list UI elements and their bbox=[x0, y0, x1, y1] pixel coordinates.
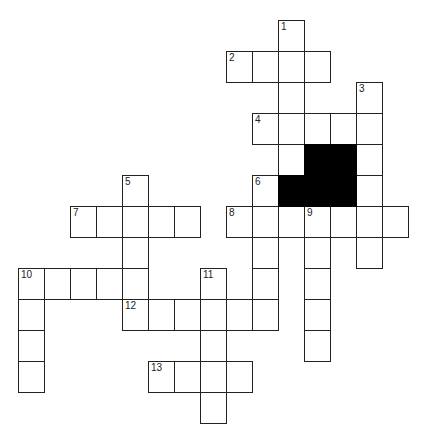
crossword-cell[interactable] bbox=[200, 361, 227, 393]
crossword-cell[interactable] bbox=[304, 237, 331, 269]
crossword-cell[interactable]: 12 bbox=[122, 299, 149, 331]
crossword-cell[interactable]: 10 bbox=[18, 268, 45, 300]
crossword-cell[interactable] bbox=[356, 237, 383, 269]
crossword-cell[interactable]: 2 bbox=[226, 51, 253, 83]
crossword-cell[interactable] bbox=[122, 268, 149, 300]
crossword-cell[interactable]: 4 bbox=[252, 113, 279, 145]
clue-number: 10 bbox=[21, 270, 32, 280]
crossword-cell[interactable] bbox=[122, 237, 149, 269]
crossword-cell[interactable] bbox=[122, 206, 149, 238]
crossword-cell[interactable] bbox=[356, 206, 383, 238]
crossword-cell[interactable] bbox=[330, 113, 357, 145]
crossword-cell[interactable] bbox=[252, 268, 279, 300]
black-block bbox=[330, 175, 357, 207]
crossword-cell[interactable] bbox=[304, 268, 331, 300]
clue-number: 3 bbox=[359, 84, 365, 94]
crossword-cell[interactable] bbox=[278, 206, 305, 238]
crossword-cell[interactable] bbox=[356, 144, 383, 176]
crossword-cell[interactable] bbox=[356, 175, 383, 207]
clue-number: 9 bbox=[307, 208, 313, 218]
black-block bbox=[330, 144, 357, 176]
clue-number: 1 bbox=[281, 22, 287, 32]
crossword-cell[interactable] bbox=[18, 361, 45, 393]
crossword-cell[interactable]: 5 bbox=[122, 175, 149, 207]
crossword-cell[interactable] bbox=[356, 113, 383, 145]
clue-number: 11 bbox=[203, 270, 213, 280]
crossword-cell[interactable] bbox=[148, 299, 175, 331]
crossword-cell[interactable]: 8 bbox=[226, 206, 253, 238]
crossword-cell[interactable] bbox=[382, 206, 409, 238]
crossword-cell[interactable] bbox=[278, 51, 305, 83]
clue-number: 6 bbox=[255, 177, 261, 187]
crossword-cell[interactable] bbox=[200, 299, 227, 331]
clue-number: 8 bbox=[229, 208, 235, 218]
clue-number: 4 bbox=[255, 115, 261, 125]
crossword-cell[interactable] bbox=[252, 237, 279, 269]
crossword-cell[interactable] bbox=[148, 206, 175, 238]
crossword-cell[interactable] bbox=[252, 51, 279, 83]
crossword-cell[interactable] bbox=[278, 144, 305, 176]
crossword-cell[interactable] bbox=[304, 113, 331, 145]
crossword-cell[interactable]: 7 bbox=[70, 206, 97, 238]
clue-number: 2 bbox=[229, 53, 235, 63]
crossword-cell[interactable] bbox=[174, 299, 201, 331]
clue-number: 12 bbox=[125, 301, 136, 311]
crossword-cell[interactable] bbox=[330, 206, 357, 238]
crossword-cell[interactable] bbox=[96, 206, 123, 238]
crossword-cell[interactable]: 1 bbox=[278, 20, 305, 52]
black-block bbox=[304, 144, 331, 176]
crossword-cell[interactable] bbox=[200, 392, 227, 424]
crossword-cell[interactable] bbox=[304, 299, 331, 331]
crossword-cell[interactable] bbox=[18, 330, 45, 362]
crossword-cell[interactable] bbox=[226, 361, 253, 393]
crossword-cell[interactable] bbox=[70, 268, 97, 300]
crossword-cell[interactable]: 6 bbox=[252, 175, 279, 207]
crossword-cell[interactable] bbox=[304, 330, 331, 362]
crossword-cell[interactable] bbox=[174, 206, 201, 238]
crossword-cell[interactable] bbox=[200, 330, 227, 362]
crossword-grid: 12345678910111213 bbox=[0, 0, 426, 446]
clue-number: 13 bbox=[151, 363, 162, 373]
crossword-cell[interactable]: 13 bbox=[148, 361, 175, 393]
crossword-cell[interactable] bbox=[174, 361, 201, 393]
crossword-cell[interactable] bbox=[226, 299, 253, 331]
crossword-cell[interactable] bbox=[44, 268, 71, 300]
black-block bbox=[278, 175, 305, 207]
clue-number: 5 bbox=[125, 177, 131, 187]
clue-number: 7 bbox=[73, 208, 79, 218]
black-block bbox=[304, 175, 331, 207]
crossword-cell[interactable] bbox=[252, 206, 279, 238]
crossword-cell[interactable] bbox=[252, 299, 279, 331]
crossword-cell[interactable] bbox=[278, 82, 305, 114]
crossword-cell[interactable] bbox=[96, 268, 123, 300]
crossword-cell[interactable]: 11 bbox=[200, 268, 227, 300]
crossword-cell[interactable] bbox=[18, 299, 45, 331]
crossword-cell[interactable]: 9 bbox=[304, 206, 331, 238]
crossword-cell[interactable]: 3 bbox=[356, 82, 383, 114]
crossword-cell[interactable] bbox=[304, 51, 331, 83]
crossword-cell[interactable] bbox=[278, 113, 305, 145]
